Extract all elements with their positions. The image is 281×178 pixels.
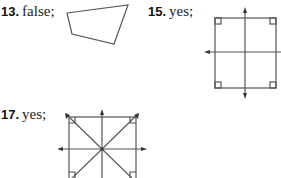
right-angle-marker <box>215 82 221 88</box>
center-point <box>101 148 104 151</box>
quadrilateral-shape <box>67 5 128 44</box>
right-angle-marker <box>130 117 136 123</box>
figure-13-quadrilateral <box>67 5 128 44</box>
arrow-down-icon <box>243 93 247 99</box>
right-angle-marker <box>270 82 276 88</box>
right-angle-marker <box>69 172 75 178</box>
arrow-left-icon <box>204 50 210 54</box>
figure-17-square <box>57 109 147 178</box>
arrow-right-icon <box>141 147 147 151</box>
arrow-up-icon <box>100 109 104 115</box>
arrow-left-icon <box>57 147 63 151</box>
right-angle-marker <box>270 18 276 24</box>
arrow-up-icon <box>243 7 247 13</box>
right-angle-marker <box>215 18 221 24</box>
figures-canvas <box>0 0 281 178</box>
figure-15-rectangle <box>204 7 281 99</box>
